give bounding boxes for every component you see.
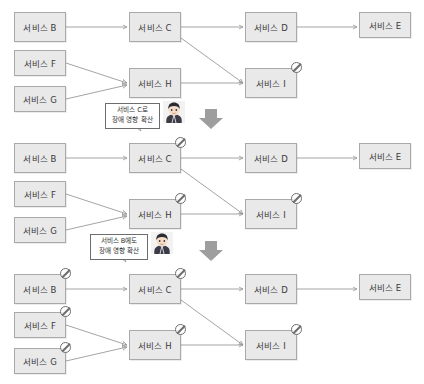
- node-label: 서비스 I: [256, 77, 286, 89]
- node-label: 서비스 C: [138, 283, 171, 295]
- prohibited-icon-service-f-p3: [60, 306, 71, 317]
- panel-3-edges: [66, 289, 357, 361]
- node-label: 서비스 F: [24, 319, 56, 331]
- person-avatar-icon-2: [151, 232, 173, 254]
- node-label: 서비스 B: [23, 21, 56, 33]
- node-service-g-p2[interactable]: 서비스 G: [14, 217, 66, 243]
- callout-line-2: 장애 영향 확산: [94, 247, 144, 257]
- prohibited-icon-service-c-p3: [175, 268, 186, 279]
- node-label: 서비스 H: [138, 339, 172, 351]
- node-label: 서비스 E: [369, 281, 402, 293]
- callout-line-2: 장애 영향 확산: [109, 116, 156, 126]
- node-label: 서비스 G: [23, 355, 57, 367]
- prohibited-icon-service-c-p2: [175, 137, 186, 148]
- callout-line-1: 서비스 B에도: [101, 237, 138, 245]
- node-service-f-p1[interactable]: 서비스 F: [14, 50, 66, 76]
- node-service-b-p2[interactable]: 서비스 B: [14, 143, 66, 173]
- node-service-d-p2[interactable]: 서비스 D: [245, 143, 297, 173]
- node-service-d-p3[interactable]: 서비스 D: [245, 274, 297, 304]
- prohibited-icon-service-h-p3: [175, 324, 186, 335]
- node-service-e-p2[interactable]: 서비스 E: [359, 143, 411, 169]
- node-service-g-p3[interactable]: 서비스 G: [14, 348, 66, 374]
- node-service-h-p3[interactable]: 서비스 H: [129, 330, 181, 360]
- node-label: 서비스 F: [24, 188, 56, 200]
- person-avatar-icon-1: [163, 101, 185, 123]
- node-label: 서비스 H: [138, 77, 172, 89]
- callout-line-1: 서비스 C로: [117, 106, 148, 114]
- node-label: 서비스 D: [254, 152, 288, 164]
- prohibited-icon-service-h-p2: [175, 193, 186, 204]
- diagram-canvas: 서비스 B 서비스 F 서비스 G 서비스 C 서비스 H 서비스 D 서비스 …: [0, 0, 424, 384]
- node-label: 서비스 E: [369, 150, 402, 162]
- node-label: 서비스 D: [254, 283, 288, 295]
- down-arrow-icon-2: [198, 240, 224, 262]
- node-label: 서비스 C: [138, 21, 171, 33]
- down-arrow-icon-1: [198, 108, 224, 130]
- node-service-h-p1[interactable]: 서비스 H: [129, 68, 181, 98]
- node-service-b-p3[interactable]: 서비스 B: [14, 274, 66, 304]
- node-service-i-p1[interactable]: 서비스 I: [245, 68, 297, 98]
- node-service-f-p2[interactable]: 서비스 F: [14, 181, 66, 207]
- node-service-i-p2[interactable]: 서비스 I: [245, 199, 297, 229]
- node-service-b-p1[interactable]: 서비스 B: [14, 12, 66, 42]
- callout-bubble-1: 서비스 C로 장애 영향 확산: [105, 103, 160, 129]
- prohibited-icon-service-i-p2: [291, 193, 302, 204]
- node-service-c-p2[interactable]: 서비스 C: [129, 143, 181, 173]
- node-service-e-p3[interactable]: 서비스 E: [359, 274, 411, 300]
- callout-bubble-2: 서비스 B에도 장애 영향 확산: [90, 234, 148, 260]
- node-label: 서비스 G: [23, 93, 57, 105]
- node-label: 서비스 B: [23, 283, 56, 295]
- node-service-c-p1[interactable]: 서비스 C: [129, 12, 181, 42]
- node-service-d-p1[interactable]: 서비스 D: [245, 12, 297, 42]
- node-label: 서비스 E: [369, 19, 402, 31]
- node-service-f-p3[interactable]: 서비스 F: [14, 312, 66, 338]
- node-service-e-p1[interactable]: 서비스 E: [359, 12, 411, 38]
- node-label: 서비스 G: [23, 224, 57, 236]
- node-service-h-p2[interactable]: 서비스 H: [129, 199, 181, 229]
- node-service-c-p3[interactable]: 서비스 C: [129, 274, 181, 304]
- panel-2-edges: [66, 158, 357, 230]
- node-label: 서비스 D: [254, 21, 288, 33]
- node-label: 서비스 F: [24, 57, 56, 69]
- prohibited-icon-service-b-p3: [60, 268, 71, 279]
- prohibited-icon-service-g-p3: [60, 342, 71, 353]
- node-label: 서비스 I: [256, 339, 286, 351]
- node-label: 서비스 I: [256, 208, 286, 220]
- node-service-g-p1[interactable]: 서비스 G: [14, 86, 66, 112]
- node-service-i-p3[interactable]: 서비스 I: [245, 330, 297, 360]
- prohibited-icon-service-i-p1: [291, 62, 302, 73]
- node-label: 서비스 C: [138, 152, 171, 164]
- node-label: 서비스 B: [23, 152, 56, 164]
- panel-1-edges: [66, 27, 357, 99]
- prohibited-icon-service-i-p3: [291, 324, 302, 335]
- node-label: 서비스 H: [138, 208, 172, 220]
